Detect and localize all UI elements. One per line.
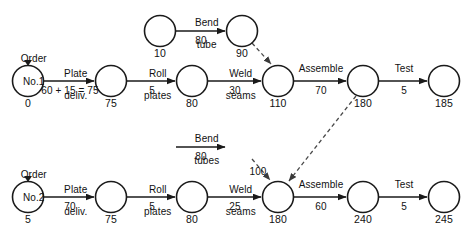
node-value-80-row1: 80 [186,98,198,109]
node-180-row2[interactable] [263,182,294,213]
activity-name-test-2: Test [395,179,414,190]
node-110[interactable] [263,66,294,97]
activity-duration-roll-plates-2: 5 [149,201,155,212]
order-2-line2: No.2 [23,192,45,203]
activity-duration-assemble-1: 70 [315,85,326,96]
node-80-row1[interactable] [177,66,208,97]
activity-duration-assemble-2: 60 [315,201,326,212]
activity-bend1-line1: Bend [195,17,219,28]
node-value-75-row2: 75 [105,214,117,225]
activity-name-bend-tube-1: Bend tube [183,6,218,61]
activity-weld1-line1: Weld [229,68,252,79]
order-2-triangle-icon [24,176,32,182]
activity-duration-roll-plates-1: 5 [149,85,155,96]
activity-roll2-line1: Roll [149,184,167,195]
node-value-180-row2: 180 [269,214,287,225]
activity-roll1-line1: Roll [149,68,167,79]
activity-plate2-line1: Plate [64,184,87,195]
activity-name-bend-tubes-2: Bend tubes [183,122,219,177]
node-value-110: 110 [269,98,286,109]
node-value-5: 5 [25,214,31,225]
node-185[interactable] [429,66,460,97]
activity-name-assemble-2: Assemble [299,179,344,190]
activity-name-assemble-1: Assemble [299,63,344,74]
activity-plate1-line1: Plate [64,68,87,79]
node-value-245: 245 [435,214,453,225]
network-diagram: 0 75 80 110 180 185 10 90 5 75 80 180 24… [0,0,474,238]
node-245[interactable] [429,182,460,213]
node-75-row2[interactable] [96,182,127,213]
node-value-185: 185 [435,98,453,109]
activity-duration-plate-deliv-1: 60 + 15 = 75 [41,85,98,96]
order-1-triangle-icon [24,60,32,66]
activity-duration-plate-deliv-2: 70 [64,201,75,212]
activity-duration-test-2: 5 [401,201,407,212]
activity-name-test-1: Test [395,63,414,74]
node-180-row1[interactable] [348,66,379,97]
node-value-180-row1: 180 [354,98,372,109]
order-label-2: Order No.2 [9,157,47,215]
node-10[interactable] [145,16,176,47]
activity-bend2-line1: Bend [195,133,219,144]
node-240[interactable] [348,182,379,213]
activity-duration-weld-seams-2: 25 [229,201,240,212]
activity-duration-test-1: 5 [401,85,407,96]
activity-duration-bend-tube-1: 80 [195,35,206,46]
activity-duration-weld-seams-1: 30 [229,85,240,96]
activity-duration-bend-tubes-2: 80 [195,151,206,162]
activity-weld2-line1: Weld [229,184,252,195]
node-80-row2[interactable] [177,182,208,213]
dashed-dependency-label-100: 100 [250,166,267,177]
node-90[interactable] [227,16,258,47]
node-value-240: 240 [354,214,372,225]
dashed-edge-180-to-180 [289,96,356,181]
node-value-80-row2: 80 [186,214,198,225]
node-75-row1[interactable] [96,66,127,97]
node-value-75-row1: 75 [105,98,117,109]
node-value-0: 0 [25,98,31,109]
